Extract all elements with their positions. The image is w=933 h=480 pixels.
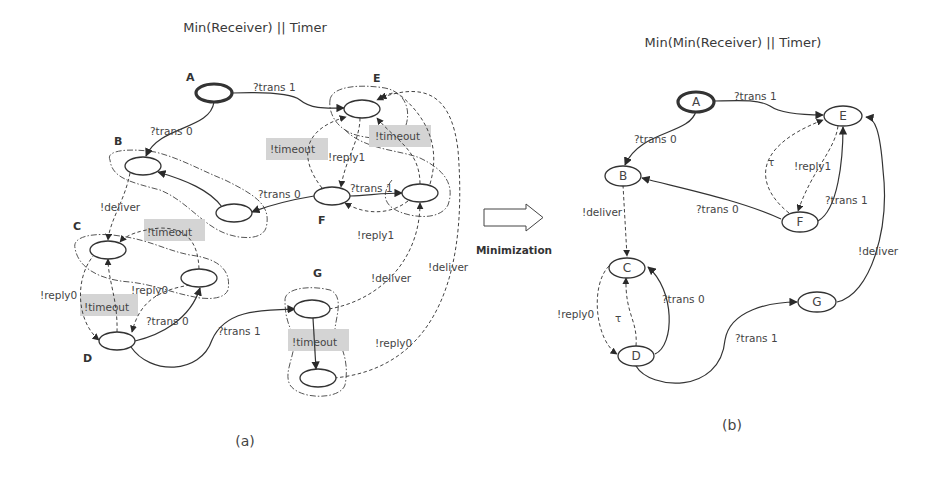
- label-b-b-c: !deliver: [582, 206, 623, 218]
- edge-b-g-e: [837, 117, 884, 302]
- state-b-name-e: E: [839, 109, 847, 123]
- minimization-label: Minimization: [476, 244, 552, 256]
- edge-g-e2: [329, 203, 420, 309]
- label-timeout-1: !timeout: [270, 143, 315, 155]
- state-name-a: A: [186, 71, 195, 84]
- label-a-e: ?trans 1: [253, 81, 296, 93]
- label-timeout-5: !timeout: [292, 336, 337, 348]
- label-d-g: ?trans 1: [218, 325, 261, 337]
- state-name-f: F: [318, 214, 326, 227]
- figure-a-caption: (a): [235, 433, 255, 449]
- state-b2: [216, 204, 252, 222]
- figure-b-title: Min(Min(Receiver) || Timer): [645, 35, 822, 50]
- state-b-name-f: F: [797, 215, 804, 229]
- state-b: [125, 157, 161, 175]
- state-b-name-d: D: [631, 349, 640, 363]
- label-f-e2: ?trans 1: [350, 182, 393, 194]
- state-name-b: B: [114, 135, 122, 148]
- label-f-b2: ?trans 0: [258, 188, 301, 200]
- state-name-c: C: [73, 220, 81, 233]
- edge-b-d-c-tau: [626, 278, 636, 346]
- label-e2-f: !reply1: [357, 229, 394, 241]
- label-b-a-b: ?trans 0: [634, 133, 677, 145]
- state-c: [90, 241, 126, 259]
- label-timeout-2: !timeout: [375, 130, 420, 142]
- label-b-a-e: ?trans 1: [734, 90, 777, 102]
- state-name-g: G: [313, 267, 322, 280]
- edge-b2-b: [158, 172, 222, 207]
- state-b-name-b: B: [619, 169, 627, 183]
- state-c2: [181, 269, 217, 287]
- label-c2-d: !reply0: [131, 284, 168, 296]
- block-arrow-icon: [484, 204, 543, 231]
- label-b-c: !deliver: [100, 201, 141, 213]
- edge-b-b-c: [623, 185, 627, 256]
- edge-b-f-e: [818, 127, 843, 221]
- state-g: [294, 300, 330, 318]
- label-d-c2: ?trans 0: [146, 315, 189, 327]
- label-b-f-e-tau: τ: [768, 156, 774, 168]
- edge-b-c-d: [597, 266, 617, 354]
- edge-labels-b: ?trans 1 ?trans 0 !deliver ?trans 0 ?tra…: [557, 90, 899, 344]
- label-e-f: !reply1: [328, 151, 365, 163]
- label-g2-d: !reply0: [375, 337, 412, 349]
- state-b-name-c: C: [623, 261, 631, 275]
- edge-e2-f: [345, 201, 408, 212]
- state-d: [99, 332, 135, 350]
- label-timeout-4: !timeout: [84, 301, 129, 313]
- edge-b-a-e: [715, 101, 823, 115]
- state-g2: [300, 369, 336, 387]
- label-b-g-e: !deliver: [858, 245, 899, 257]
- state-e2: [402, 184, 438, 202]
- edge-b-d-c: [648, 267, 669, 354]
- edge-a-e: [232, 93, 344, 109]
- state-f: [314, 187, 350, 205]
- label-timeout-3: !timeout: [147, 226, 192, 238]
- minimization-arrow: Minimization: [476, 204, 552, 256]
- label-g-e2: !deliver: [371, 272, 412, 284]
- label-g2-e: !deliver: [428, 261, 469, 273]
- state-name-d: D: [83, 352, 92, 365]
- label-c-d: !reply0: [40, 289, 77, 301]
- label-b-c-d: !reply0: [557, 308, 594, 320]
- figure-a-title: Min(Receiver) || Timer: [183, 20, 327, 35]
- dashed-transitions-b: [597, 120, 838, 354]
- label-b-d-c: ?trans 0: [662, 293, 705, 305]
- label-b-f-e: ?trans 1: [825, 194, 868, 206]
- label-b-d-c-tau: τ: [615, 312, 621, 324]
- figure-a: Min(Receiver) || Timer: [40, 20, 469, 449]
- label-b-e-f: !reply1: [794, 160, 831, 172]
- label-b-f-b: ?trans 0: [696, 203, 739, 215]
- figure-b: Min(Min(Receiver) || Timer): [557, 35, 899, 433]
- state-e: [344, 100, 380, 118]
- figure-b-caption: (b): [722, 417, 742, 433]
- minimization-diagram: Min(Receiver) || Timer: [0, 0, 933, 480]
- label-a-b: ?trans 0: [150, 125, 193, 137]
- state-b-name-a: A: [692, 95, 701, 109]
- state-name-e: E: [373, 72, 381, 85]
- state-b-name-g: G: [812, 295, 821, 309]
- state-a: [196, 84, 232, 102]
- label-b-d-g: ?trans 1: [735, 332, 778, 344]
